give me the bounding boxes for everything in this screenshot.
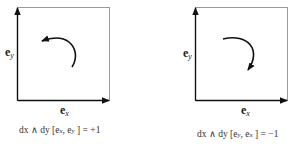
right-ey-label: ey <box>183 47 192 63</box>
right-ex-label: ex <box>241 104 250 120</box>
right-caption: dx ∧ dy [ey, ex ] = −1 <box>197 129 278 140</box>
left-frame <box>18 8 110 101</box>
left-caption: dx ∧ dy [ex, ey ] = +1 <box>19 125 100 136</box>
left-ex-label: ex <box>60 104 69 120</box>
right-panel <box>196 8 288 101</box>
left-ey-label: ey <box>5 46 14 62</box>
clockwise-arrow-icon <box>223 38 254 70</box>
left-panel <box>18 8 110 101</box>
right-frame <box>196 8 288 101</box>
counterclockwise-arrow-icon <box>42 38 75 67</box>
